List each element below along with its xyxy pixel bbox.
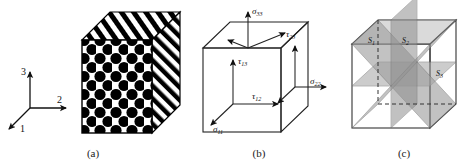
failure-planes: [352, 0, 456, 128]
stress-label-sigma33: σ33: [252, 6, 262, 17]
axis-label-2: 2: [57, 94, 62, 105]
coordinate-axes: 3 2 1: [9, 66, 66, 134]
panel-c-graphic: S1 S2 S3: [332, 0, 476, 160]
stress-label-sigma22: σ22: [310, 76, 320, 87]
panel-c: S1 S2 S3 (c): [332, 0, 476, 160]
stress-label-sigma11: σ11: [213, 124, 223, 135]
caption-a: (a): [0, 147, 186, 159]
panel-b-graphic: σ33 τ23 τ13 τ12 σ22 σ11: [186, 0, 332, 160]
caption-b: (b): [186, 147, 332, 159]
composite-cube: [82, 12, 180, 133]
stress-label-tau12: τ12: [252, 91, 261, 102]
stress-label-tau13: τ13: [238, 56, 247, 67]
stress-label-tau23: τ23: [286, 29, 295, 40]
stress-arrows: [211, 12, 326, 125]
panel-a: 3 2 1 (a): [0, 0, 186, 160]
panel-b: σ33 τ23 τ13 τ12 σ22 σ11 (b): [186, 0, 332, 160]
panel-a-graphic: 3 2 1: [0, 0, 186, 160]
cube-front-face: [82, 40, 152, 133]
axis-label-3: 3: [21, 66, 26, 77]
caption-c: (c): [332, 147, 476, 159]
axis-label-1: 1: [20, 123, 25, 134]
figure-root: 3 2 1 (a): [0, 0, 476, 160]
